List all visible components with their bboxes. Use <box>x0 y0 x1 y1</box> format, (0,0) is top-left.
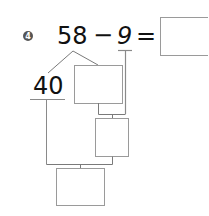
equals-sign: = <box>136 22 156 50</box>
decomposed-part: 40 <box>33 72 64 100</box>
join-lines-lower <box>47 157 113 165</box>
answer-box[interactable] <box>161 18 209 56</box>
remainder-box[interactable] <box>75 66 123 104</box>
subtrahend: 9 <box>117 22 132 50</box>
number-bond-diagram: 4 58 − 9 = 40 <box>0 0 208 216</box>
minuend: 58 <box>57 22 88 50</box>
join-lines-upper <box>99 103 126 115</box>
problem-number-badge: 4 <box>23 31 33 41</box>
final-box[interactable] <box>57 169 105 206</box>
split-lines <box>48 51 98 73</box>
minus-operator: − <box>93 21 113 49</box>
intermediate-box[interactable] <box>96 119 129 157</box>
problem-number: 4 <box>25 32 31 41</box>
